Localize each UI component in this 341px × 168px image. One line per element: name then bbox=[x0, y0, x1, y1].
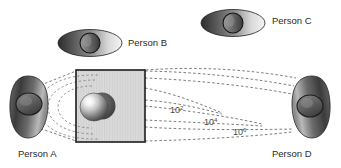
right-scale-contours bbox=[145, 68, 296, 141]
person-d-label: Person D bbox=[272, 148, 312, 159]
person-c-figure bbox=[201, 10, 265, 37]
dashed-field-lines bbox=[36, 68, 296, 141]
scale-label-10e6: 106 bbox=[233, 127, 247, 138]
scale-label-10e4: 104 bbox=[204, 117, 218, 128]
scale-label-10e2: 102 bbox=[170, 105, 184, 116]
figure-canvas: Person A Person B Person C Person D 102 … bbox=[0, 0, 341, 168]
scale-base-10e6: 10 bbox=[233, 127, 243, 137]
person-c-label: Person C bbox=[272, 15, 312, 26]
scale-exponent-10e4: 4 bbox=[214, 117, 218, 123]
person-b-label: Person B bbox=[128, 37, 167, 48]
central-sphere bbox=[80, 93, 116, 122]
person-b-figure bbox=[58, 30, 122, 57]
diagram-svg: Person A Person B Person C Person D 102 … bbox=[0, 0, 341, 168]
scale-base-10e2: 10 bbox=[170, 105, 180, 115]
person-d-figure bbox=[292, 76, 330, 138]
person-a-label: Person A bbox=[18, 148, 57, 159]
scale-base-10e4: 10 bbox=[204, 117, 214, 127]
person-a-figure bbox=[10, 76, 48, 138]
